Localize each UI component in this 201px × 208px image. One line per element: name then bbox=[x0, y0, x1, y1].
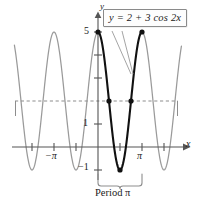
graph-canvas bbox=[0, 0, 201, 208]
x-tick-label-pi: π bbox=[137, 151, 142, 161]
y-tick-label-neg1: −1 bbox=[78, 162, 89, 172]
y-tick-label-1: 1 bbox=[83, 118, 88, 128]
x-axis-label: x bbox=[186, 139, 190, 149]
period-caption: Period π bbox=[95, 188, 130, 199]
equation-callout-box: y = 2 + 3 cos 2x bbox=[103, 9, 187, 27]
marked-point-maximum bbox=[139, 29, 144, 34]
marked-point-minimum bbox=[117, 167, 122, 172]
callout-leader-lines bbox=[112, 31, 133, 74]
equation-text: y = 2 + 3 cos 2x bbox=[109, 12, 181, 23]
marked-point-midline-crossing bbox=[128, 98, 133, 103]
y-axis-label: y bbox=[100, 2, 104, 11]
x-tick-label-neg-pi: −π bbox=[45, 151, 57, 161]
y-tick-label-5: 5 bbox=[84, 26, 89, 36]
marked-point-maximum bbox=[95, 29, 100, 34]
y-axis-arrow bbox=[95, 12, 102, 19]
marked-point-midline-crossing bbox=[106, 98, 111, 103]
graph-figure: y = 2 + 3 cos 2x y x 5 1 −1 −π π Period … bbox=[0, 0, 201, 208]
